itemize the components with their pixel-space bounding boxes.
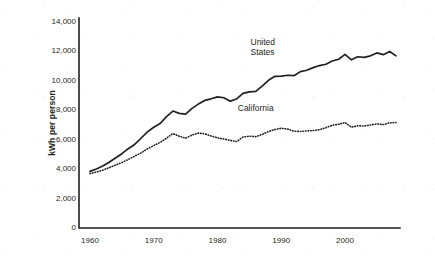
series-line-california bbox=[90, 123, 396, 174]
series-label-united-states: United States bbox=[251, 37, 276, 57]
x-tick-label: 2000 bbox=[325, 236, 365, 245]
axis-lines bbox=[79, 18, 400, 228]
plot-area bbox=[0, 0, 435, 269]
series-label-california: California bbox=[238, 103, 274, 113]
x-tick-label: 1990 bbox=[261, 236, 301, 245]
line-chart: kWh per person 02,0004,0006,0008,00010,0… bbox=[0, 0, 435, 269]
x-tick-label: 1970 bbox=[134, 236, 174, 245]
x-tick-label: 1960 bbox=[70, 236, 110, 245]
x-tick-label: 1980 bbox=[198, 236, 238, 245]
